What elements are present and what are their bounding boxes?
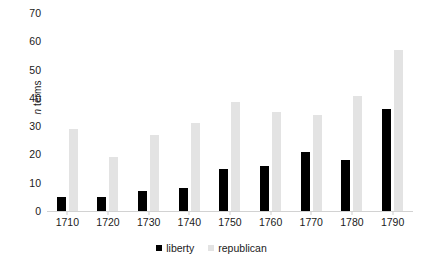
x-tick-label-1750: 1750 — [218, 216, 241, 228]
y-tick-label-40: 40 — [29, 92, 41, 104]
gray-square-swatch — [208, 245, 214, 251]
legend-label-liberty: liberty — [166, 242, 194, 254]
bar-liberty-1780 — [341, 160, 350, 211]
bar-liberty-1790 — [382, 109, 391, 211]
bar-liberty-1710 — [57, 197, 66, 211]
y-tick-label-0: 0 — [35, 205, 41, 217]
bar-republican-1730 — [150, 135, 159, 211]
bar-group: 1740 — [171, 13, 207, 211]
legend-item-republican: republican — [208, 242, 266, 254]
bar-group: 1710 — [49, 13, 85, 211]
x-tick-label-1790: 1790 — [381, 216, 404, 228]
plot-area: 010203040506070 171017201730174017501760… — [47, 13, 413, 211]
bar-chart: n terms 010203040506070 1710172017301740… — [0, 0, 423, 265]
bar-liberty-1750 — [219, 169, 228, 211]
x-tick-mark-1780 — [351, 211, 352, 215]
bar-liberty-1770 — [301, 152, 310, 211]
bar-group: 1770 — [293, 13, 329, 211]
legend-label-republican: republican — [218, 242, 266, 254]
y-tick-label-70: 70 — [29, 7, 41, 19]
chart-legend: libertyrepublican — [0, 242, 423, 254]
x-tick-mark-1710 — [67, 211, 68, 215]
bar-group: 1760 — [253, 13, 289, 211]
bar-republican-1720 — [109, 157, 118, 211]
x-tick-mark-1770 — [311, 211, 312, 215]
bar-liberty-1730 — [138, 191, 147, 211]
x-tick-mark-1740 — [189, 211, 190, 215]
bar-republican-1780 — [353, 96, 362, 211]
bar-republican-1790 — [394, 50, 403, 211]
bar-republican-1710 — [69, 129, 78, 211]
x-tick-mark-1720 — [107, 211, 108, 215]
legend-item-liberty: liberty — [156, 242, 194, 254]
x-tick-mark-1730 — [148, 211, 149, 215]
x-tick-label-1710: 1710 — [56, 216, 79, 228]
y-tick-label-50: 50 — [29, 64, 41, 76]
bar-republican-1740 — [191, 123, 200, 211]
y-tick-label-20: 20 — [29, 148, 41, 160]
x-tick-mark-1750 — [229, 211, 230, 215]
bar-group: 1790 — [375, 13, 411, 211]
bar-republican-1750 — [231, 102, 240, 211]
bar-group: 1780 — [334, 13, 370, 211]
x-tick-mark-1790 — [392, 211, 393, 215]
y-tick-label-60: 60 — [29, 35, 41, 47]
x-tick-label-1740: 1740 — [178, 216, 201, 228]
y-axis-title-italic-n: n — [32, 109, 43, 115]
bar-republican-1770 — [313, 115, 322, 211]
bar-group: 1720 — [90, 13, 126, 211]
bar-groups: 171017201730174017501760177017801790 — [47, 13, 413, 211]
bar-republican-1760 — [272, 112, 281, 211]
y-tick-label-10: 10 — [29, 177, 41, 189]
black-square-swatch — [156, 245, 162, 251]
x-tick-label-1760: 1760 — [259, 216, 282, 228]
bar-group: 1730 — [131, 13, 167, 211]
y-tick-label-30: 30 — [29, 120, 41, 132]
x-tick-label-1780: 1780 — [340, 216, 363, 228]
bar-liberty-1720 — [97, 197, 106, 211]
x-tick-mark-1760 — [270, 211, 271, 215]
bar-group: 1750 — [212, 13, 248, 211]
bar-liberty-1740 — [179, 188, 188, 211]
bar-liberty-1760 — [260, 166, 269, 211]
x-tick-label-1770: 1770 — [300, 216, 323, 228]
x-tick-label-1730: 1730 — [137, 216, 160, 228]
x-tick-label-1720: 1720 — [96, 216, 119, 228]
